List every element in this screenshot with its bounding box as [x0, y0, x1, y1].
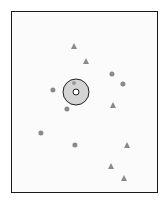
scatter-figure: [0, 0, 168, 204]
scatter-point-triangle: [83, 58, 89, 64]
scatter-point-circle: [72, 142, 77, 147]
scatter-point-circle: [109, 71, 114, 76]
target-inner-ring: [72, 88, 80, 96]
target-marker: [63, 79, 90, 106]
scatter-point-triangle: [71, 43, 77, 49]
marker-layer: [0, 0, 168, 204]
scatter-point-circle: [38, 130, 43, 135]
scatter-point-triangle: [108, 163, 114, 169]
scatter-point-circle: [120, 81, 125, 86]
scatter-point-triangle: [121, 175, 127, 181]
target-satellite-dot: [72, 81, 76, 85]
scatter-point-circle: [50, 87, 55, 92]
scatter-point-triangle: [124, 142, 130, 148]
scatter-point-triangle: [110, 102, 116, 108]
scatter-point-circle: [64, 106, 69, 111]
